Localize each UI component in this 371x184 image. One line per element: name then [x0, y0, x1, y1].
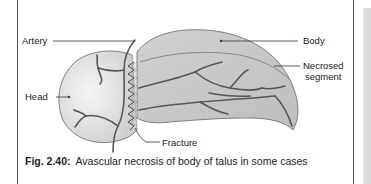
figure-caption-text: Avascular necrosis of body of talus in s…: [76, 155, 308, 167]
figure-number: Fig. 2.40:: [25, 155, 71, 167]
label-fracture: Fracture: [162, 137, 197, 148]
label-body: Body: [303, 35, 325, 46]
talus-body: [137, 30, 298, 130]
label-necrosed-line2: segment: [305, 71, 341, 82]
label-necrosed-line1: Necrosed: [303, 60, 344, 71]
label-artery: Artery: [22, 35, 47, 46]
figure-caption: Fig. 2.40:Avascular necrosis of body of …: [25, 155, 308, 167]
label-head: Head: [25, 91, 48, 102]
